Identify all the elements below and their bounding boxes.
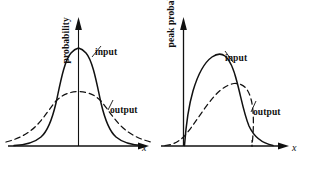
left-chart-plot — [0, 0, 155, 170]
chart-panel-left: probability x input output — [0, 0, 155, 170]
left-y-axis-label: probability — [62, 17, 72, 63]
right-x-axis — [161, 142, 289, 149]
right-input-curve — [185, 54, 274, 145]
figure-two-probability-distribution-charts: probability x input output — [0, 0, 311, 170]
left-y-axis — [75, 17, 82, 146]
right-x-axis-label: x — [292, 143, 297, 153]
right-y-axis-label: peak probability — [167, 0, 177, 48]
right-input-annotation: input — [225, 54, 247, 64]
right-chart-plot — [155, 0, 311, 170]
left-output-annotation: output — [110, 106, 138, 116]
left-x-axis-label: x — [142, 143, 147, 153]
chart-panel-right: peak probability x input output — [155, 0, 311, 170]
left-input-annotation: input — [95, 48, 117, 58]
right-output-annotation: output — [253, 108, 281, 118]
